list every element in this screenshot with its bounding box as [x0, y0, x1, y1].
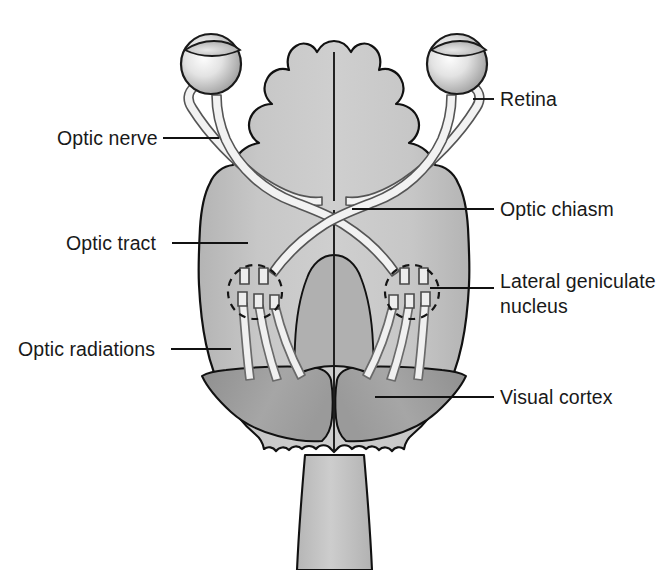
diagram-canvas: Optic nerve Retina Optic tract Optic chi… [0, 0, 668, 570]
visual-cortex-left [202, 367, 333, 442]
label-lateral-geniculate-nucleus-line2: nucleus [500, 295, 568, 317]
visual-cortex-right [335, 367, 466, 442]
eye-left-group [181, 34, 241, 94]
brainstem [297, 455, 372, 570]
label-visual-cortex: Visual cortex [500, 386, 613, 408]
label-retina: Retina [500, 88, 557, 110]
label-lateral-geniculate-nucleus-line1: Lateral geniculate [500, 270, 656, 292]
optic-radiation-origin-right-1 [421, 292, 430, 306]
optic-radiation-origin-right-2 [405, 294, 414, 308]
optic-tract-terminal-right-1 [419, 268, 428, 284]
optic-radiation-origin-left-2 [254, 294, 263, 308]
optic-tract-terminal-left-2 [259, 268, 268, 284]
label-optic-nerve: Optic nerve [57, 127, 158, 149]
label-optic-radiations: Optic radiations [18, 338, 155, 360]
optic-radiation-origin-left-1 [238, 292, 247, 306]
eye-right-group [427, 34, 487, 94]
optic-tract-terminal-right-2 [400, 268, 409, 284]
visual-pathway-figure: Optic nerve Retina Optic tract Optic chi… [0, 0, 668, 570]
label-optic-chiasm: Optic chiasm [500, 198, 614, 220]
optic-tract-terminal-left-1 [240, 268, 249, 284]
label-optic-tract: Optic tract [66, 232, 156, 254]
